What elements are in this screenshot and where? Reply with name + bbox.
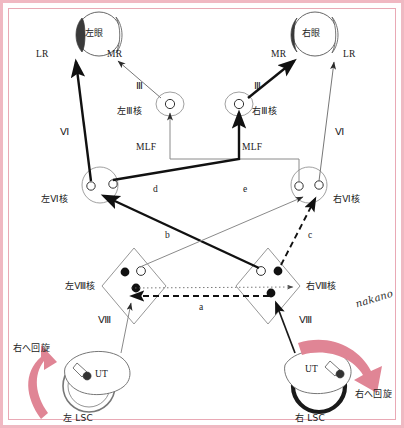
right-abducens-nerve-label: Ⅵ	[335, 128, 344, 138]
mlf-right-path	[113, 113, 239, 180]
left-abducens-nucleus	[82, 167, 118, 203]
left-rotation-arrow	[28, 345, 57, 419]
left-utricle-label: UT	[95, 370, 108, 380]
vor-pathway-diagram	[3, 3, 404, 428]
left-abducens-nerve-path	[76, 62, 91, 181]
right-eye-lr-label: LR	[343, 50, 356, 60]
mlf-left-label: MLF	[136, 143, 156, 153]
mlf-left-path	[170, 113, 299, 182]
left-abducens-nucleus-label: 左Ⅵ核	[41, 195, 68, 204]
right-vestibular-nerve-label: Ⅷ	[299, 316, 312, 326]
right-abducens-nucleus-label: 右Ⅵ核	[333, 195, 360, 204]
left-labyrinth	[63, 351, 130, 412]
right-vestibular-nerve-path	[276, 303, 295, 353]
right-oculomotor-nerve-label: Ⅲ	[254, 82, 261, 92]
right-labyrinth	[285, 350, 351, 412]
right-lsc-label: 右 LSC	[295, 414, 325, 423]
left-vestibular-nucleus-label: 左Ⅷ核	[65, 282, 95, 291]
left-oculomotor-nucleus	[156, 92, 184, 116]
mlf-right-label: MLF	[242, 143, 262, 153]
tract-d-label: d	[153, 185, 158, 195]
left-vestibular-nerve-label: Ⅷ	[98, 316, 111, 326]
figure-frame: 左眼 右眼 LR MR MR LR Ⅲ Ⅲ 左Ⅲ核 右Ⅲ核 MLF MLF Ⅵ …	[0, 0, 404, 428]
left-eye-mr-label: MR	[107, 50, 122, 60]
right-rotation-label: 右へ回旋	[355, 390, 392, 399]
left-abducens-nerve-label: Ⅵ	[60, 128, 69, 138]
left-oculomotor-nerve-label: Ⅲ	[136, 82, 143, 92]
left-vestibular-nucleus	[102, 248, 166, 324]
tract-a-label: a	[199, 303, 203, 313]
right-abducens-nucleus	[291, 167, 327, 203]
right-vestibular-nucleus-label: 右Ⅷ核	[306, 282, 336, 291]
tract-c-label: c	[308, 231, 312, 241]
right-abducens-nerve-path	[319, 62, 334, 181]
right-eye-mr-label: MR	[271, 50, 286, 60]
right-utricle-label: UT	[305, 365, 318, 375]
right-vestibular-nucleus	[236, 248, 300, 324]
left-lsc-label: 左 LSC	[63, 414, 93, 423]
left-oculomotor-nerve-path	[118, 61, 161, 98]
tract-b-label: b	[165, 231, 170, 241]
right-oculomotor-nucleus-label: 右Ⅲ核	[252, 107, 277, 116]
left-eye-lr-label: LR	[36, 50, 49, 60]
right-eye-label: 右眼	[302, 29, 320, 38]
tract-e-label: e	[243, 185, 247, 195]
left-oculomotor-nucleus-label: 左Ⅲ核	[117, 107, 142, 116]
right-oculomotor-nerve-path	[248, 61, 294, 98]
right-oculomotor-nucleus	[225, 92, 253, 116]
left-eye-label: 左眼	[85, 29, 103, 38]
left-rotation-label: 右へ回旋	[13, 344, 50, 353]
